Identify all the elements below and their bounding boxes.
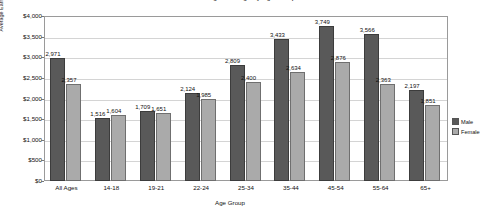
legend-item: Male bbox=[452, 118, 480, 125]
y-axis-tick-label: $0 bbox=[0, 177, 42, 184]
bars-layer: 2,9712,3571,5161,6041,7091,6512,1241,985… bbox=[44, 16, 448, 181]
bar-value-label: 3,749 bbox=[307, 19, 337, 25]
bar-group: 2,9712,357 bbox=[44, 16, 89, 181]
legend-label: Female bbox=[461, 129, 480, 135]
bar-value-label: 1,985 bbox=[189, 92, 219, 98]
chart-title: Average Earnings by Age Group bbox=[0, 0, 491, 1]
bar-value-label: 2,363 bbox=[368, 77, 398, 83]
bar-female bbox=[380, 84, 395, 181]
x-axis-tick-label: 65+ bbox=[396, 184, 456, 191]
y-axis-tick-label: $3,500 bbox=[0, 33, 42, 40]
x-axis-title: Age Group bbox=[0, 199, 460, 206]
y-axis-tick-label: $1,000 bbox=[0, 136, 42, 143]
bar-female bbox=[201, 99, 216, 181]
bar-value-label: 3,433 bbox=[262, 32, 292, 38]
legend-swatch-male bbox=[452, 118, 459, 125]
bar-male bbox=[95, 118, 110, 181]
bar-male bbox=[319, 26, 334, 181]
bar-male bbox=[274, 39, 289, 181]
bar-group: 1,5161,604 bbox=[89, 16, 134, 181]
y-axis-tick-label: $4,000 bbox=[0, 12, 42, 19]
y-axis-tick-label: $1,500 bbox=[0, 115, 42, 122]
bar-value-label: 2,809 bbox=[218, 58, 248, 64]
bar-female bbox=[66, 84, 81, 181]
chart-legend: MaleFemale bbox=[452, 118, 480, 138]
bar-female bbox=[425, 105, 440, 181]
bar-male bbox=[140, 111, 155, 181]
bar-group: 3,7492,876 bbox=[313, 16, 358, 181]
bar-value-label: 2,876 bbox=[323, 55, 353, 61]
bar-female bbox=[156, 113, 171, 181]
bar-female bbox=[246, 82, 261, 181]
y-axis-tick-label: $500 bbox=[0, 156, 42, 163]
bar-group: 2,1241,985 bbox=[179, 16, 224, 181]
bar-female bbox=[111, 115, 126, 181]
y-axis-tick-label: $3,000 bbox=[0, 53, 42, 60]
bar-male bbox=[364, 34, 379, 181]
y-axis-tick-label: $2,000 bbox=[0, 95, 42, 102]
bar-value-label: 2,634 bbox=[278, 65, 308, 71]
y-axis-tick-label: $2,500 bbox=[0, 74, 42, 81]
bar-value-label: 1,851 bbox=[413, 98, 443, 104]
y-axis-title: Average Earnings bbox=[0, 0, 4, 60]
bar-male bbox=[409, 90, 424, 181]
bar-chart: Average Earnings by Age Group Average Ea… bbox=[0, 0, 491, 222]
bar-value-label: 3,566 bbox=[352, 27, 382, 33]
bar-value-label: 1,651 bbox=[144, 106, 174, 112]
bar-group: 3,5662,363 bbox=[358, 16, 403, 181]
bar-value-label: 2,971 bbox=[38, 51, 68, 57]
bar-value-label: 2,357 bbox=[54, 77, 84, 83]
bar-male bbox=[230, 65, 245, 181]
bar-value-label: 2,400 bbox=[234, 75, 264, 81]
y-axis-tick-mark bbox=[41, 181, 44, 182]
bar-group: 2,8092,400 bbox=[224, 16, 269, 181]
legend-label: Male bbox=[461, 119, 473, 125]
bar-male bbox=[185, 93, 200, 181]
bar-value-label: 1,604 bbox=[99, 108, 129, 114]
bar-group: 2,1971,851 bbox=[403, 16, 448, 181]
bar-group: 3,4332,634 bbox=[268, 16, 313, 181]
bar-female bbox=[290, 72, 305, 181]
legend-swatch-female bbox=[452, 128, 459, 135]
bar-value-label: 2,197 bbox=[397, 83, 427, 89]
bar-female bbox=[335, 62, 350, 181]
legend-item: Female bbox=[452, 128, 480, 135]
bar-group: 1,7091,651 bbox=[134, 16, 179, 181]
